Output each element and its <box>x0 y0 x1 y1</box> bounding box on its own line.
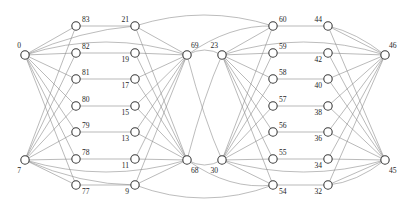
graph-edge <box>25 26 76 160</box>
graph-edge-curved <box>25 160 187 172</box>
graph-edge <box>135 106 187 160</box>
graph-node-69[interactable] <box>183 51 191 59</box>
graph-edge <box>25 53 76 55</box>
graph-edge <box>222 53 273 55</box>
graph-node-80[interactable] <box>72 102 80 110</box>
graph-edge <box>328 132 385 160</box>
graph-node-label-45: 45 <box>389 166 397 175</box>
graph-edge <box>135 26 187 55</box>
graph-node-label-81: 81 <box>82 68 90 77</box>
graph-node-label-32: 32 <box>314 187 322 196</box>
graph-edge <box>25 79 76 160</box>
graph-node-15[interactable] <box>131 102 139 110</box>
graph-node-13[interactable] <box>131 128 139 136</box>
graph-node-0[interactable] <box>21 51 29 59</box>
graph-node-label-59: 59 <box>279 42 287 51</box>
graph-node-7[interactable] <box>21 156 29 164</box>
graph-node-label-80: 80 <box>82 95 90 104</box>
graph-node-label-54: 54 <box>279 187 287 196</box>
graph-edge <box>135 26 187 160</box>
graph-node-11[interactable] <box>131 155 139 163</box>
graph-edge-curved <box>25 160 135 185</box>
graph-node-30[interactable] <box>218 156 226 164</box>
graph-node-58[interactable] <box>269 75 277 83</box>
graph-node-label-69: 69 <box>191 41 199 50</box>
graph-node-36[interactable] <box>324 128 332 136</box>
graph-edge <box>25 55 76 106</box>
graph-node-40[interactable] <box>324 75 332 83</box>
graph-edge <box>222 26 273 55</box>
graph-edge <box>135 160 187 185</box>
graph-edge <box>25 106 76 160</box>
graph-node-46[interactable] <box>381 51 389 59</box>
graph-node-59[interactable] <box>269 49 277 57</box>
node-layer <box>21 22 389 189</box>
graph-edge <box>135 132 187 160</box>
graph-edge-curved <box>187 55 222 160</box>
graph-node-label-77: 77 <box>82 187 90 196</box>
graph-node-77[interactable] <box>72 181 80 189</box>
graph-node-label-57: 57 <box>279 95 287 104</box>
graph-node-label-46: 46 <box>389 41 397 50</box>
graph-node-78[interactable] <box>72 155 80 163</box>
graph-node-17[interactable] <box>131 75 139 83</box>
graph-canvas: 0783828180797877211917151311969682330605… <box>0 0 408 213</box>
graph-node-label-42: 42 <box>314 55 322 64</box>
graph-node-label-78: 78 <box>82 148 90 157</box>
graph-node-label-7: 7 <box>17 166 21 175</box>
graph-node-60[interactable] <box>269 22 277 30</box>
graph-edge <box>25 159 76 160</box>
graph-edge <box>222 26 273 160</box>
graph-node-23[interactable] <box>218 51 226 59</box>
graph-node-label-40: 40 <box>314 81 322 90</box>
graph-edge <box>328 26 385 55</box>
graph-node-label-60: 60 <box>279 15 287 24</box>
graph-edge <box>25 132 76 160</box>
graph-node-21[interactable] <box>131 22 139 30</box>
graph-edge <box>328 106 385 160</box>
graph-node-81[interactable] <box>72 75 80 83</box>
graph-edge-curved <box>135 185 273 198</box>
graph-node-32[interactable] <box>324 181 332 189</box>
graph-node-label-21: 21 <box>121 15 129 24</box>
graph-node-55[interactable] <box>269 155 277 163</box>
graph-node-label-17: 17 <box>121 81 129 90</box>
graph-edge <box>135 53 187 55</box>
graph-edge-curved <box>135 15 273 26</box>
graph-node-82[interactable] <box>72 49 80 57</box>
graph-node-44[interactable] <box>324 22 332 30</box>
graph-edge <box>25 26 76 55</box>
graph-node-19[interactable] <box>131 49 139 57</box>
graph-node-label-56: 56 <box>279 121 287 130</box>
graph-node-label-23: 23 <box>210 41 218 50</box>
graph-edge <box>328 159 385 160</box>
graph-node-label-34: 34 <box>314 161 322 170</box>
graph-node-9[interactable] <box>131 181 139 189</box>
graph-edge <box>328 160 385 185</box>
graph-node-label-13: 13 <box>121 134 129 143</box>
graph-node-83[interactable] <box>72 22 80 30</box>
graph-node-label-68: 68 <box>191 166 199 175</box>
graph-edge <box>222 79 273 160</box>
graph-edge <box>328 53 385 55</box>
graph-node-label-0: 0 <box>17 41 21 50</box>
graph-node-42[interactable] <box>324 49 332 57</box>
graph-node-label-19: 19 <box>121 55 129 64</box>
graph-edge <box>222 132 273 160</box>
graph-node-label-83: 83 <box>82 15 90 24</box>
graph-node-56[interactable] <box>269 128 277 136</box>
graph-node-34[interactable] <box>324 155 332 163</box>
graph-node-label-38: 38 <box>314 108 322 117</box>
graph-node-38[interactable] <box>324 102 332 110</box>
graph-edge <box>328 55 385 106</box>
graph-node-45[interactable] <box>381 156 389 164</box>
graph-edge-curved <box>187 160 222 165</box>
graph-node-54[interactable] <box>269 181 277 189</box>
graph-node-label-82: 82 <box>82 42 90 51</box>
graph-node-79[interactable] <box>72 128 80 136</box>
graph-figure-root: 0783828180797877211917151311969682330605… <box>0 0 408 213</box>
graph-edge <box>222 159 273 160</box>
graph-node-57[interactable] <box>269 102 277 110</box>
graph-node-68[interactable] <box>183 156 191 164</box>
graph-edge <box>135 159 187 160</box>
